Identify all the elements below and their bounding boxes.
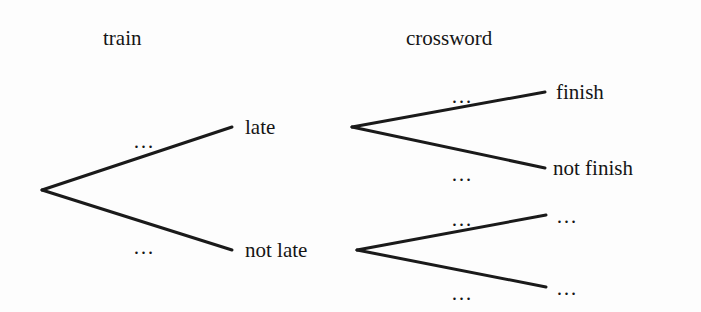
node-label-not-late: not late (245, 240, 307, 261)
node-label-outcome-3: … (556, 206, 578, 227)
edge-label-root-to-late: … (133, 131, 155, 152)
node-label-finish: finish (556, 82, 604, 103)
edge-label-root-to-not-late: … (133, 237, 155, 258)
edge-label-late-to-finish: … (451, 86, 473, 107)
edge-label-late-to-not-finish: … (451, 164, 473, 185)
column-header-train: train (103, 28, 141, 49)
edge-label-not-late-to-outcome-3: … (451, 209, 473, 230)
tree-edge-late-to-finish (352, 92, 545, 127)
edge-label-not-late-to-outcome-4: … (451, 283, 473, 304)
tree-diagram: train crossword late not late finish not… (0, 0, 701, 312)
node-label-not-finish: not finish (553, 158, 633, 179)
tree-edge-late-to-not-finish (352, 127, 545, 168)
node-label-late: late (245, 117, 275, 138)
node-label-outcome-4: … (556, 278, 578, 299)
column-header-crossword: crossword (406, 28, 492, 49)
